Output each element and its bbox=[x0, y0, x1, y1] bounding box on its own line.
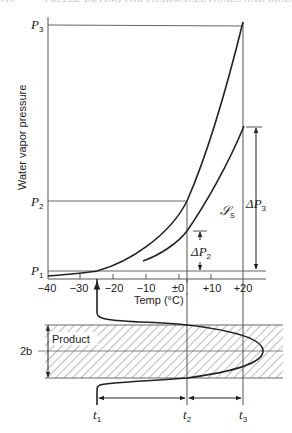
x-tick-labels: −40 −30 −20 −10 ±0 +10 +20 bbox=[38, 282, 253, 294]
svg-text:+10: +10 bbox=[203, 282, 222, 294]
svg-text:−40: −40 bbox=[38, 282, 57, 294]
t3-label: t3 bbox=[239, 407, 248, 424]
delta-p2-label: ΔP2 bbox=[190, 244, 212, 261]
x-axis-ticks bbox=[80, 274, 211, 279]
ice-vapor-pressure-curve bbox=[48, 22, 243, 276]
p2-label: P2 bbox=[30, 194, 44, 211]
product-label: Product bbox=[52, 333, 90, 345]
p3-label: P3 bbox=[30, 17, 44, 34]
svg-text:+20: +20 bbox=[234, 282, 253, 294]
t2-label: t2 bbox=[183, 407, 192, 424]
ss-curve-label: 𝒮S bbox=[220, 203, 235, 219]
svg-text:−10: −10 bbox=[137, 282, 156, 294]
t1-label: t1 bbox=[93, 407, 102, 424]
vapor-pressure-diagram: Water vapor pressure P3 P2 P1 −40 −30 −2… bbox=[0, 0, 292, 433]
svg-text:±0: ±0 bbox=[172, 282, 184, 294]
svg-text:−30: −30 bbox=[70, 282, 89, 294]
p1-label: P1 bbox=[30, 263, 44, 280]
y-axis-label: Water vapor pressure bbox=[16, 85, 28, 190]
svg-text:−20: −20 bbox=[105, 282, 124, 294]
p3-line bbox=[48, 25, 243, 26]
x-axis-label: Temp (°C) bbox=[134, 294, 184, 306]
thickness-label: 2b bbox=[20, 345, 32, 357]
ss-curve bbox=[143, 126, 244, 261]
